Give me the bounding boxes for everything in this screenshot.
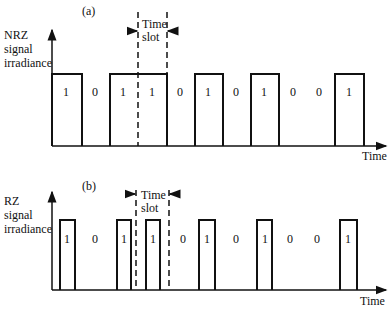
rz-bit: 0 (92, 233, 98, 246)
nrz-bit: 0 (92, 86, 98, 99)
nrz-bit: 1 (149, 86, 155, 99)
nrz-xlabel: Time (362, 150, 387, 163)
rz-slot-label-2: slot (141, 202, 158, 215)
nrz-ylabel-line-1: NRZ (4, 28, 28, 42)
rz-bit: 1 (345, 233, 351, 246)
rz-waveform (60, 220, 357, 290)
nrz-panel (52, 12, 386, 146)
nrz-bit: 1 (346, 86, 352, 99)
nrz-bit: 0 (233, 86, 239, 99)
nrz-bit: 1 (205, 86, 211, 99)
rz-xlabel: Time (360, 295, 385, 308)
nrz-bit: 1 (120, 86, 126, 99)
nrz-bit: 0 (290, 86, 296, 99)
panel-a-tag: (a) (82, 5, 95, 18)
nrz-ylabel-line-3: irradiance (4, 56, 52, 70)
rz-bit: 0 (233, 233, 239, 246)
panel-b-tag: (b) (82, 180, 96, 193)
rz-ylabel-line-2: signal (4, 208, 33, 222)
rz-bit: 0 (287, 233, 293, 246)
rz-bit: 1 (121, 233, 127, 246)
nrz-bit: 0 (316, 86, 322, 99)
rz-panel (52, 190, 386, 290)
rz-bit: 1 (204, 233, 210, 246)
rz-bit: 0 (314, 233, 320, 246)
nrz-bit: 1 (63, 86, 69, 99)
nrz-bit: 0 (177, 86, 183, 99)
rz-bit: 0 (180, 233, 186, 246)
rz-ylabel-line-3: irradiance (4, 222, 52, 236)
diagram-canvas (0, 0, 392, 315)
rz-ylabel-line-1: RZ (4, 194, 19, 208)
nrz-bit: 1 (261, 86, 267, 99)
nrz-slot-label-2: slot (142, 31, 159, 44)
rz-bit: 1 (64, 233, 70, 246)
rz-bit: 1 (262, 233, 268, 246)
nrz-ylabel-line-2: signal (4, 42, 33, 56)
rz-bit: 1 (150, 233, 156, 246)
